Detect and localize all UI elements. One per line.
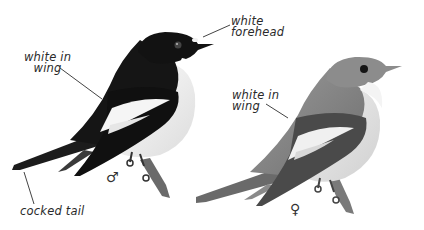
male-symbol-icon: ♂ xyxy=(106,170,119,184)
label-male-white-in-wing: white in wing xyxy=(24,52,71,74)
label-female-white-in-wing: white in wing xyxy=(232,90,279,112)
leader-line-male-forehead xyxy=(203,25,230,37)
leader-line-male-tail xyxy=(24,172,34,204)
birds-drawing xyxy=(0,0,424,230)
female-symbol-icon: ♀ xyxy=(290,202,300,216)
female-bird xyxy=(196,57,402,214)
female-perch-branch xyxy=(328,176,354,214)
male-perch-branch xyxy=(140,158,170,198)
illustration: white forehead white in wing cocked tail… xyxy=(0,0,424,230)
label-male-white-forehead: white forehead xyxy=(231,16,284,38)
label-male-cocked-tail: cocked tail xyxy=(20,206,85,217)
